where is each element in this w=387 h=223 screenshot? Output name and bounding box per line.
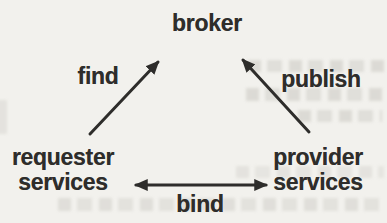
- node-label-line: services: [273, 170, 363, 195]
- node-label-line: requester: [12, 145, 114, 170]
- edge-label-bind: bind: [176, 192, 223, 217]
- node-label-line: services: [12, 170, 114, 195]
- node-label-line: provider: [273, 145, 363, 170]
- edge-label-publish: publish: [281, 67, 361, 92]
- node-requester-services: requester services: [12, 145, 114, 195]
- edge-label-find: find: [78, 64, 119, 89]
- scanned-diagram-page: broker find publish requester services p…: [0, 0, 387, 223]
- node-broker: broker: [172, 11, 242, 36]
- node-provider-services: provider services: [273, 145, 363, 195]
